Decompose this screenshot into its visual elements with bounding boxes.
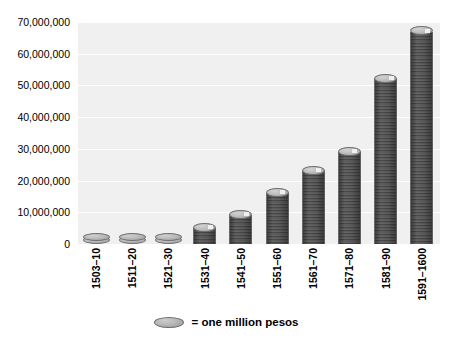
coin-stack-notch	[280, 190, 285, 194]
coin-stack	[374, 79, 397, 244]
y-axis-tick-0: 0	[64, 238, 70, 250]
y-axis-tick-3: 30,000,000	[17, 143, 70, 155]
coin-stack-body	[266, 193, 289, 244]
x-axis-tick-label: 1591–1600	[416, 248, 428, 301]
y-axis-tick-5: 50,000,000	[17, 79, 70, 91]
coin-stack	[157, 237, 180, 244]
x-axis-tick-label: 1581–90	[380, 248, 392, 289]
coin	[83, 233, 110, 241]
y-axis-tick-2: 20,000,000	[17, 175, 70, 187]
x-axis-tick-label: 1503–10	[90, 248, 102, 289]
coin-stack	[85, 237, 108, 244]
legend: = one million pesos	[0, 311, 453, 333]
x-axis-tick-label: 1551–60	[271, 248, 283, 289]
coin-stack-body	[229, 215, 252, 244]
coin	[119, 233, 146, 241]
coin-stack-notch	[425, 29, 430, 33]
x-axis-tick: 1571–80	[331, 248, 367, 306]
x-axis-tick-label: 1531–40	[199, 248, 211, 289]
legend-label: = one million pesos	[191, 316, 298, 328]
y-axis: 0 10,000,000 20,000,000 30,000,000 40,00…	[0, 0, 74, 340]
coin-stack-top	[374, 74, 397, 83]
x-axis-tick: 1511–20	[114, 248, 150, 306]
coin-stack-body	[302, 171, 325, 244]
coin-stack-top	[302, 166, 325, 175]
plot-area	[78, 22, 440, 244]
x-axis-tick-label: 1541–50	[235, 248, 247, 289]
coin	[155, 233, 182, 241]
coin-stack-body	[410, 32, 433, 244]
y-axis-tick-7: 70,000,000	[17, 16, 70, 28]
x-axis-tick: 1521–30	[150, 248, 186, 306]
y-axis-tick-4: 40,000,000	[17, 111, 70, 123]
coin-stack-chart: 0 10,000,000 20,000,000 30,000,000 40,00…	[0, 0, 453, 340]
coin-stack-body	[338, 152, 361, 244]
coin-stack-top	[266, 188, 289, 197]
x-axis-tick: 1503–10	[78, 248, 114, 306]
x-axis-tick: 1561–70	[295, 248, 331, 306]
y-axis-tick-1: 10,000,000	[17, 206, 70, 218]
coin-stack	[338, 152, 361, 244]
x-axis-tick-label: 1511–20	[126, 248, 138, 288]
coin-stack	[193, 228, 216, 244]
coin-stack-body	[374, 79, 397, 244]
x-axis-tick: 1581–90	[368, 248, 404, 306]
coin-stack	[229, 215, 252, 244]
x-axis-tick-label: 1571–80	[343, 248, 355, 289]
x-axis-tick-label: 1561–70	[307, 248, 319, 289]
x-axis-tick: 1591–1600	[404, 248, 440, 306]
coin-stacks	[78, 22, 440, 244]
x-axis-tick: 1531–40	[187, 248, 223, 306]
y-axis-tick-6: 60,000,000	[17, 48, 70, 60]
coin-stack-notch	[389, 76, 394, 80]
coin-stack	[410, 32, 433, 244]
coin-stack	[302, 171, 325, 244]
x-axis-tick: 1541–50	[223, 248, 259, 306]
coin-disc-icon	[154, 317, 184, 328]
coin-stack	[266, 193, 289, 244]
coin-stack-notch	[208, 225, 213, 229]
x-axis-tick: 1551–60	[259, 248, 295, 306]
x-axis: 1503–101511–201521–301531–401541–501551–…	[78, 248, 440, 306]
x-axis-tick-label: 1521–30	[162, 248, 174, 289]
coin-stack-notch	[244, 212, 249, 216]
coin-stack-top	[193, 223, 216, 232]
coin-stack-notch	[316, 168, 321, 172]
coin-stack-notch	[352, 149, 357, 153]
coin-stack-top	[338, 147, 361, 156]
coin-stack	[121, 235, 144, 245]
